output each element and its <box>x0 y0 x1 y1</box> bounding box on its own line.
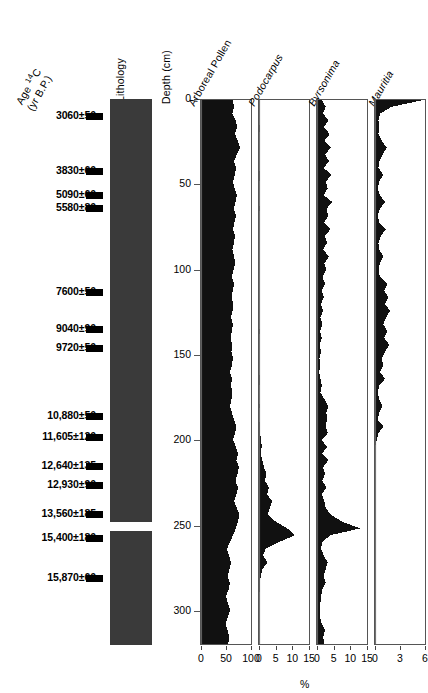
age-column-header: Age 14C(yr B.P.) <box>11 65 54 112</box>
age-tick <box>86 113 103 120</box>
taxon-title-arboreal-pollen: Arboreal Pollen <box>186 37 234 108</box>
age-label: 3060±50 <box>0 109 96 121</box>
age-label: 9040±90 <box>0 322 96 334</box>
depth-tick-label: 50 <box>157 177 191 189</box>
age-tick <box>86 463 103 470</box>
depth-tick-label: 300 <box>157 604 191 616</box>
age-label: 11,605±120 <box>0 430 96 442</box>
x-tick <box>375 646 376 650</box>
age-tick <box>86 413 103 420</box>
x-tick <box>317 646 318 650</box>
age-tick <box>86 575 103 582</box>
x-tick <box>226 646 227 650</box>
age-tick <box>86 289 103 296</box>
x-tick <box>400 646 401 650</box>
x-tick <box>309 646 310 650</box>
x-tick <box>350 646 351 650</box>
age-label: 10,880±50 <box>0 409 96 421</box>
depth-tick-label: 150 <box>157 348 191 360</box>
x-tick-label: 6 <box>410 652 428 664</box>
age-label: 9720±50 <box>0 341 96 353</box>
depth-tick-label: 100 <box>157 263 191 275</box>
age-label: 12,930±90 <box>0 478 96 490</box>
age-tick <box>86 345 103 352</box>
percent-axis-label: % <box>300 678 309 690</box>
x-tick <box>276 646 277 650</box>
x-tick <box>251 646 252 650</box>
age-tick <box>86 482 103 489</box>
panel-arboreal-pollen <box>200 99 252 645</box>
x-tick <box>292 646 293 650</box>
x-tick <box>259 646 260 650</box>
x-tick <box>334 646 335 650</box>
lithology-band <box>110 522 152 531</box>
x-tick <box>201 646 202 650</box>
age-tick <box>86 434 103 441</box>
lithology-column <box>110 99 152 645</box>
age-label: 12,640±135 <box>0 459 96 471</box>
age-label: 15,870±60 <box>0 571 96 583</box>
x-tick <box>367 646 368 650</box>
depth-tick-label: 250 <box>157 519 191 531</box>
age-label: 5580±80 <box>0 201 96 213</box>
panel-byrsonima <box>316 99 368 645</box>
age-label: 3830±60 <box>0 164 96 176</box>
age-label: 7600±50 <box>0 285 96 297</box>
panel-mauritia <box>374 99 426 645</box>
depth-tick-label: 200 <box>157 433 191 445</box>
x-tick <box>425 646 426 650</box>
age-tick <box>86 511 103 518</box>
age-tick <box>86 535 103 542</box>
pollen-diagram-figure: Age 14C(yr B.P.) Lithology Depth (cm) 30… <box>0 0 428 693</box>
age-tick <box>86 168 103 175</box>
age-tick <box>86 192 103 199</box>
age-label: 13,560±185 <box>0 507 96 519</box>
panel-podocarpus <box>258 99 310 645</box>
age-label: 15,400±180 <box>0 531 96 543</box>
age-tick <box>86 326 103 333</box>
age-label: 5090±60 <box>0 188 96 200</box>
lithology-column-header: Lithology <box>114 58 126 102</box>
age-tick <box>86 205 103 212</box>
